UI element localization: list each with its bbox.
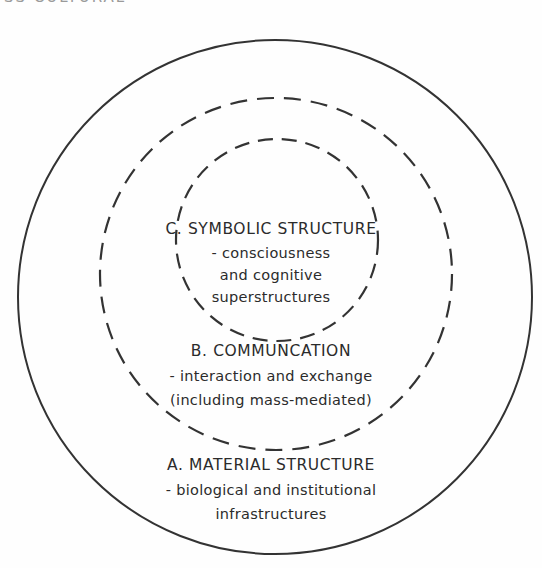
level-c-title: C. SYMBOLIC STRUCTURE	[0, 220, 542, 238]
level-c-line-3: superstructures	[0, 289, 542, 305]
level-b-line-2: (including mass-mediated)	[0, 392, 542, 408]
diagram-page: SS CULTURAL C. SYMBOLIC STRUCTURE - cons…	[0, 0, 542, 568]
level-c-line-1: - consciousness	[0, 245, 542, 261]
level-b-title: B. COMMUNCATION	[0, 342, 542, 360]
level-b-line-1: - interaction and exchange	[0, 368, 542, 384]
level-a-title: A. MATERIAL STRUCTURE	[0, 456, 542, 474]
inner-ring-symbolic	[176, 139, 378, 341]
level-a-line-2: infrastructures	[0, 506, 542, 522]
level-a-line-1: - biological and institutional	[0, 482, 542, 498]
level-c-line-2: and cognitive	[0, 267, 542, 283]
